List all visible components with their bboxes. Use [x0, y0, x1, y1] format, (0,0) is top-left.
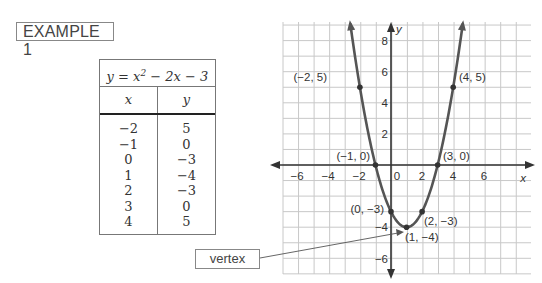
- point-labels: (−2, 5) (4, 5) (−1, 0) (3, 0) (0, −3) (2…: [293, 71, 486, 243]
- x-tick-label: 2: [419, 170, 425, 182]
- point-label: (−1, 0): [336, 150, 370, 162]
- y-tick-label: 6: [382, 66, 388, 78]
- point-label: (−2, 5): [293, 71, 327, 83]
- data-point: [450, 84, 456, 90]
- data-point: [373, 162, 379, 168]
- y-axis-up-arrow-icon: [387, 22, 395, 32]
- x-tick-label: 0: [394, 170, 400, 182]
- x-axis: [270, 161, 535, 169]
- y-axis: [387, 22, 395, 279]
- x-tick-label: 4: [450, 170, 457, 182]
- point-label: (3, 0): [443, 150, 470, 162]
- y-tick-label: 2: [382, 128, 388, 140]
- x-axis-label: x: [519, 172, 527, 184]
- callout-arrowhead-icon: [396, 229, 404, 236]
- y-tick-label: −6: [375, 253, 388, 265]
- point-label: (2, −3): [424, 215, 458, 227]
- x-tick-label: −4: [321, 170, 335, 182]
- point-label: (1, −4): [405, 231, 439, 243]
- y-tick-label: 8: [382, 35, 388, 47]
- point-label: (4, 5): [459, 71, 486, 83]
- y-tick-labels: 8 6 4 2 −4 −6 y: [375, 23, 403, 265]
- y-tick-label: 4: [382, 97, 389, 109]
- point-label: (0, −3): [350, 203, 384, 215]
- x-tick-label: −2: [352, 170, 365, 182]
- data-point: [435, 162, 441, 168]
- x-tick-label: −6: [290, 170, 303, 182]
- x-tick-label: 6: [481, 170, 487, 182]
- data-point: [419, 209, 425, 215]
- x-axis-right-arrow-icon: [525, 161, 535, 169]
- x-axis-left-arrow-icon: [270, 161, 280, 169]
- data-point: [388, 209, 394, 215]
- data-point: [404, 224, 410, 230]
- x-tick-labels: −6 −4 −2 0 2 4 6 x: [290, 170, 527, 184]
- parabola-curve: [350, 24, 462, 227]
- y-tick-label: −4: [375, 221, 389, 233]
- parabola-graph: −6 −4 −2 0 2 4 6 x 8 6 4 2 −4 −6 y (−2, …: [0, 0, 542, 283]
- data-point: [357, 84, 363, 90]
